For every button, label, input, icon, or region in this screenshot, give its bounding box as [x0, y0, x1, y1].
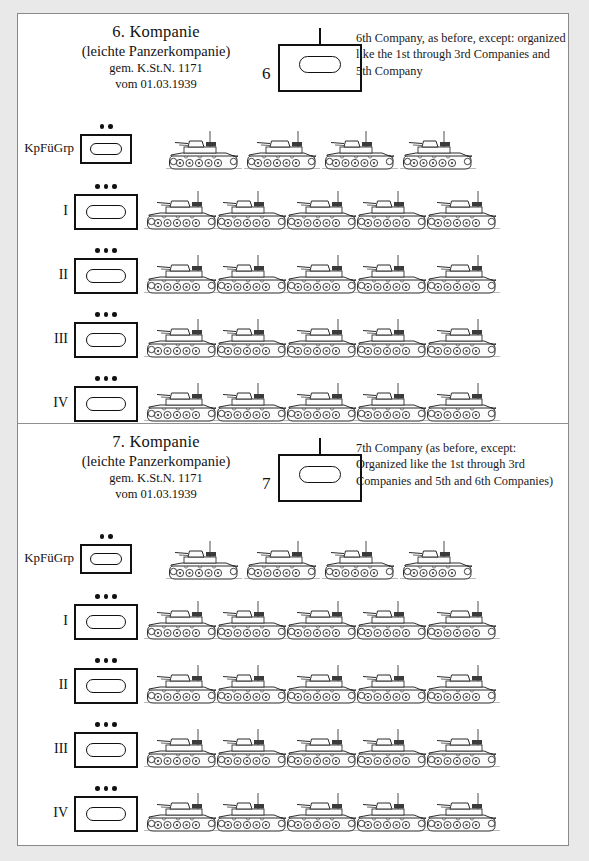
unit-label: I	[36, 613, 68, 629]
tank-icon	[322, 130, 398, 176]
armor-oval-icon	[86, 679, 126, 693]
armor-oval-icon	[86, 397, 126, 411]
unit-row: II	[18, 250, 568, 306]
company-6-title-block: 6. Kompanie (leichte Panzerkompanie) gem…	[26, 22, 286, 92]
echelon-dot	[104, 594, 109, 599]
unit-label: III	[36, 331, 68, 347]
tank-icon	[424, 600, 500, 650]
company-7-symbol-tick	[319, 438, 321, 455]
tank-icon	[284, 728, 360, 778]
company-6-header: 6. Kompanie (leichte Panzerkompanie) gem…	[18, 14, 568, 106]
unit-row: II	[18, 660, 568, 716]
tank-icon	[244, 130, 320, 176]
tank-icon	[354, 254, 430, 304]
tank-icon	[214, 318, 290, 368]
armor-oval-icon	[299, 56, 341, 73]
unit-label: IV	[36, 395, 68, 411]
tank-icon	[400, 130, 476, 176]
echelon-dots	[100, 534, 113, 539]
tank-icon	[424, 254, 500, 304]
echelon-dots	[95, 312, 117, 317]
echelon-dot	[95, 312, 100, 317]
tank-icon	[214, 190, 290, 240]
unit-label: I	[36, 203, 68, 219]
armor-oval-icon	[86, 743, 126, 757]
echelon-dot	[100, 124, 105, 129]
echelon-dot	[112, 722, 117, 727]
document-page: 6. Kompanie (leichte Panzerkompanie) gem…	[17, 13, 569, 846]
armor-oval-icon	[90, 143, 122, 155]
tank-icon	[354, 318, 430, 368]
company-7-subtitle: (leichte Panzerkompanie)	[26, 452, 286, 470]
echelon-dots	[95, 248, 117, 253]
company-7-title-block: 7. Kompanie (leichte Panzerkompanie) gem…	[26, 432, 286, 502]
echelon-dot	[104, 722, 109, 727]
unit-row: I	[18, 186, 568, 242]
echelon-dot	[112, 184, 117, 189]
tank-icon	[144, 318, 220, 368]
unit-row: III	[18, 314, 568, 370]
tank-icon	[144, 190, 220, 240]
unit-row: IV	[18, 788, 568, 844]
tank-icon	[144, 254, 220, 304]
unit-label: KpFüGrp	[18, 550, 74, 566]
tank-icon	[214, 728, 290, 778]
company-6-symbol-tick	[319, 28, 321, 45]
unit-row: III	[18, 724, 568, 780]
company-7-symbol: 7	[258, 438, 368, 508]
company-6-symbol: 6	[258, 28, 368, 98]
echelon-dot	[112, 594, 117, 599]
tank-icon	[424, 190, 500, 240]
echelon-dots	[95, 658, 117, 663]
tank-icon	[214, 254, 290, 304]
company-7-symbol-number: 7	[262, 474, 271, 494]
tank-icon	[214, 792, 290, 842]
tank-icon	[354, 728, 430, 778]
tank-icon	[214, 600, 290, 650]
tank-icon	[424, 664, 500, 714]
tank-icon	[144, 600, 220, 650]
echelon-dot	[95, 722, 100, 727]
tank-icon	[284, 318, 360, 368]
echelon-dots	[95, 786, 117, 791]
unit-row: KpFüGrp	[18, 122, 568, 178]
unit-row: I	[18, 596, 568, 652]
unit-label: KpFüGrp	[18, 140, 74, 156]
tank-icon	[322, 540, 398, 586]
company-7-kstn: gem. K.St.N. 1171	[26, 470, 286, 486]
company-7-section: 7. Kompanie (leichte Panzerkompanie) gem…	[18, 424, 568, 846]
tank-icon	[166, 130, 242, 176]
armor-oval-icon	[90, 553, 122, 565]
tank-icon	[400, 540, 476, 586]
armor-oval-icon	[299, 466, 341, 483]
tank-icon	[354, 600, 430, 650]
tank-icon	[284, 664, 360, 714]
company-6-title: 6. Kompanie	[26, 22, 286, 42]
company-6-symbol-number: 6	[262, 64, 271, 84]
echelon-dot	[108, 534, 113, 539]
unit-label: II	[36, 677, 68, 693]
tank-icon	[144, 664, 220, 714]
tank-icon	[166, 540, 242, 586]
echelon-dot	[95, 658, 100, 663]
tank-icon	[354, 792, 430, 842]
echelon-dots	[95, 594, 117, 599]
echelon-dots	[95, 184, 117, 189]
echelon-dot	[100, 534, 105, 539]
tank-icon	[424, 792, 500, 842]
tank-icon	[144, 792, 220, 842]
echelon-dots	[95, 376, 117, 381]
tank-icon	[354, 664, 430, 714]
tank-icon	[354, 190, 430, 240]
armor-oval-icon	[86, 333, 126, 347]
echelon-dot	[112, 312, 117, 317]
company-6-subtitle: (leichte Panzerkompanie)	[26, 42, 286, 60]
echelon-dots	[95, 722, 117, 727]
unit-row: KpFüGrp	[18, 532, 568, 588]
echelon-dot	[108, 124, 113, 129]
echelon-dot	[104, 786, 109, 791]
company-7-title: 7. Kompanie	[26, 432, 286, 452]
echelon-dot	[95, 786, 100, 791]
echelon-dot	[112, 376, 117, 381]
armor-oval-icon	[86, 269, 126, 283]
